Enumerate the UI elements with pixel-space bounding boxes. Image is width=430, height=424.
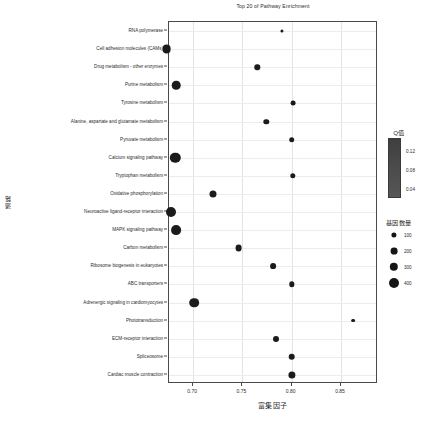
y-axis-tick [164,138,167,139]
y-axis-tick-label: Oxidative phosphorylation [0,190,163,195]
y-axis-tick [164,156,167,157]
qvalue-colorbar-wrap: 0.120.080.04 [388,138,401,198]
gridline-horizontal [169,31,376,32]
gridline-horizontal [169,176,376,177]
y-axis-title: 通路 [3,196,12,209]
data-point[interactable] [189,298,199,308]
y-axis-tick-label: MAPK signaling pathway [0,227,163,232]
x-axis-tick-label: 0.85 [335,388,345,394]
y-axis-tick [164,84,167,85]
y-axis-tick [164,355,167,356]
data-point[interactable] [170,153,180,163]
y-axis-tick-label: Ribosome biogenesis in eukaryotes [0,263,163,268]
data-point[interactable] [273,336,279,342]
gridline-horizontal [169,284,376,285]
y-axis-tick [164,337,167,338]
gridline-horizontal [169,212,376,213]
y-axis-tick [164,247,167,248]
y-axis-tick-label: Cardiac muscle contraction [0,371,163,376]
chart-title: Top 20 of Pathway Enrichment [168,3,378,9]
gridline-vertical [193,22,194,382]
data-point[interactable] [166,207,176,217]
data-point[interactable] [162,45,171,54]
qvalue-legend-title: Q值 [386,128,412,137]
data-point[interactable] [290,101,295,106]
qvalue-legend-tick-label: 0.04 [406,187,415,192]
gridline-horizontal [169,230,376,231]
data-point[interactable] [172,81,181,90]
x-axis-tick-label: 0.70 [187,388,197,394]
data-point[interactable] [263,119,268,124]
data-point[interactable] [289,282,294,287]
gridline-horizontal [169,140,376,141]
gridline-horizontal [169,103,376,104]
y-axis-tick-label: ECM-receptor interaction [0,335,163,340]
y-axis-tick [164,120,167,121]
gridline-vertical [341,22,342,382]
gridline-vertical [292,22,293,382]
y-axis-tick-label: Neuroactive ligand-receptor interaction [0,209,163,214]
gridline-horizontal [169,85,376,86]
gene-count-legend-label: 100 [404,233,412,238]
gene-count-legend-label: 200 [404,249,412,254]
gene-count-legend-bubble [391,232,396,237]
y-axis-tick [164,30,167,31]
data-point[interactable] [290,173,295,178]
gridline-vertical [242,22,243,382]
y-axis-tick-label: ABC transporters [0,281,163,286]
data-point[interactable] [255,65,260,70]
gridline-horizontal [169,158,376,159]
y-axis-tick [164,66,167,67]
x-axis-tick [192,383,193,386]
gene-count-legend-item: 200 [386,243,430,259]
qvalue-legend: Q值 0.120.080.04 [386,128,428,137]
gene-count-legend-item: 400 [386,275,430,291]
gene-count-legend-title: 基因数量 [386,218,430,227]
y-axis-tick-label: Pyruvate metabolism [0,136,163,141]
gene-count-legend-item: 300 [386,259,430,275]
data-point[interactable] [280,29,283,32]
gridline-horizontal [169,248,376,249]
y-axis-tick [164,174,167,175]
data-point[interactable] [270,263,276,269]
y-axis-tick [164,265,167,266]
data-point[interactable] [289,137,295,143]
y-axis-tick-label: Spliceosome [0,353,163,358]
gene-count-legend-items: 100200300400 [386,227,430,291]
x-axis-tick [291,383,292,386]
data-point[interactable] [351,319,355,323]
gene-count-legend-bubble [389,278,399,288]
y-axis-tick-label: RNA polymerase [0,28,163,33]
y-axis-tick-label: Calcium signaling pathway [0,154,163,159]
gene-count-legend-label: 400 [404,281,412,286]
y-axis-tick-label: Purine metabolism [0,82,163,87]
gridline-horizontal [169,321,376,322]
qvalue-legend-tick-label: 0.08 [406,168,415,173]
data-point[interactable] [171,225,181,235]
gene-count-legend-bubble [391,248,398,255]
data-point[interactable] [209,190,216,197]
y-axis-tick [164,373,167,374]
gridline-horizontal [169,303,376,304]
data-point[interactable] [235,245,242,252]
data-point[interactable] [288,371,295,378]
gene-count-legend: 基因数量 100200300400 [386,218,430,291]
gridline-horizontal [169,122,376,123]
plot-panel [168,21,377,383]
y-axis-tick-label: Cell adhesion molecules (CAMs) [0,46,163,51]
gene-count-legend-item: 100 [386,227,430,243]
x-axis-tick [241,383,242,386]
y-axis-tick [164,283,167,284]
gridline-horizontal [169,375,376,376]
data-point[interactable] [288,354,295,361]
x-axis-tick-label: 0.75 [237,388,247,394]
gridline-horizontal [169,67,376,68]
x-axis-tick-label: 0.80 [286,388,296,394]
x-axis-title: 富集因子 [168,400,377,410]
y-axis-tick [164,192,167,193]
y-axis-tick [164,319,167,320]
y-axis-tick-label: Adrenergic signaling in cardiomyocytes [0,299,163,304]
y-axis-tick-label: Alanine, aspartate and glutamate metabol… [0,118,163,123]
gridline-horizontal [169,49,376,50]
y-axis-tick-label: Phototransduction [0,317,163,322]
